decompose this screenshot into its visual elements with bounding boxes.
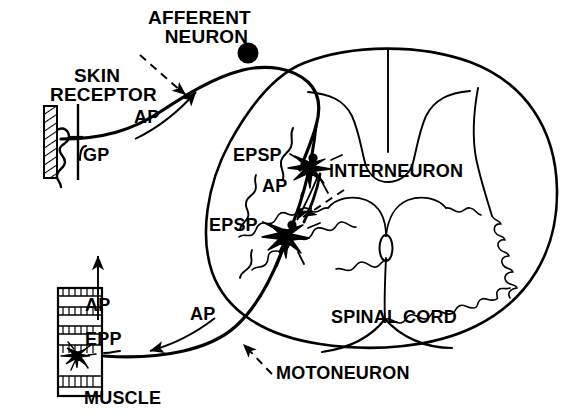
epp-trace <box>104 351 120 353</box>
epsp-trace-upper <box>281 128 293 179</box>
ap-interneuron-label: AP <box>262 177 287 195</box>
diagram-svg <box>0 0 588 419</box>
epsp-upper-label: EPSP <box>233 146 282 164</box>
epsp-lower-label: EPSP <box>209 216 258 234</box>
muscle-label: MUSCLE <box>84 389 161 407</box>
spinal-cord-outline <box>206 49 557 348</box>
afferent-neuron-label: AFFERENT NEURON <box>148 8 251 47</box>
figure-canvas: AFFERENT NEURON SKIN RECEPTOR GP AP EPSP… <box>0 0 588 419</box>
ap-motor-label: AP <box>190 305 215 323</box>
gp-label: GP <box>83 146 109 164</box>
skin-receptor <box>44 104 83 187</box>
spinal-cord-label: SPINAL CORD <box>331 308 457 326</box>
motoneuron-axon <box>104 248 283 357</box>
epsp-trace-lower <box>240 250 252 278</box>
motoneuron-label: MOTONEURON <box>276 364 410 382</box>
interneuron-label: INTERNEURON <box>329 162 463 180</box>
ap-afferent-label: AP <box>134 108 159 126</box>
ap-muscle-label: AP <box>85 296 110 314</box>
epp-label: EPP <box>85 330 122 348</box>
motoneuron-leader <box>243 344 272 374</box>
motoneuron-soma <box>262 222 320 266</box>
skin-receptor-label: SKIN RECEPTOR <box>50 66 157 105</box>
